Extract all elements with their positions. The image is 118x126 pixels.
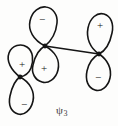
upper-right-lobe-sign: + (97, 19, 103, 31)
wavefunction-label: ψ3 (56, 104, 67, 118)
upper-left-lobe-sign: + (19, 58, 25, 70)
lower-center-lobe-sign: + (41, 62, 47, 74)
lower-left-lobe-sign: − (21, 98, 27, 110)
center-node (43, 44, 48, 49)
top-center-lobe-sign: − (39, 13, 45, 25)
wavefunction-subscript: 3 (63, 109, 68, 118)
wavefunction-symbol: ψ (56, 104, 63, 116)
lower-right-lobe-sign: − (95, 71, 101, 83)
left-node (18, 75, 23, 80)
orbital-figure: − + + − + − ψ3 (0, 0, 118, 126)
right-node (97, 52, 102, 57)
